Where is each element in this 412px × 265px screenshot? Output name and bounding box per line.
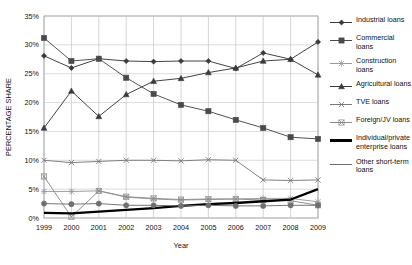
legend-point-icon: [336, 81, 347, 92]
legend-point-icon: [336, 117, 347, 128]
x-axis-tick-label: 2005: [200, 223, 216, 232]
legend-marker-square-icon: [330, 35, 352, 46]
legend-item-label: Industrial loans: [356, 16, 404, 25]
legend-item-label: Commercial loans: [356, 34, 412, 51]
data-point-diamond: [69, 65, 74, 70]
legend-marker-none-thin-icon: [330, 159, 352, 170]
legend-item[interactable]: Foreign/JV loans: [330, 116, 412, 128]
legend-item[interactable]: Commercial loans: [330, 34, 412, 51]
legend-marker-x-box-icon: [330, 117, 352, 128]
data-point-circle: [178, 203, 183, 208]
x-axis-tick-label: 2001: [91, 223, 107, 232]
chart-legend: Industrial loansCommercial loansConstruc…: [330, 0, 412, 265]
y-axis-tick-label: 15%: [25, 127, 40, 136]
x-axis-tick-label: 2003: [146, 223, 162, 232]
data-point-square: [69, 58, 74, 63]
legend-item-label: TVE loans: [356, 98, 389, 107]
y-axis-tick-label: 5%: [29, 185, 40, 194]
y-axis-tick-label: 0%: [29, 214, 40, 223]
legend-item-label: Individual/private enterprise loans: [356, 134, 412, 151]
data-point-circle: [69, 202, 74, 207]
x-axis-tick-label: 2004: [173, 223, 189, 232]
data-point-diamond: [41, 53, 46, 58]
data-point-triangle: [69, 88, 75, 93]
y-axis-tick-label: 10%: [25, 156, 40, 165]
legend-item[interactable]: Construction loans: [330, 57, 412, 74]
data-point-square: [206, 109, 211, 114]
chart-plot-area: 0%5%10%15%20%25%30%35%199920002001200220…: [0, 0, 330, 265]
data-point-square: [233, 117, 238, 122]
data-point-circle: [315, 203, 320, 208]
y-axis-title: PERCENTAGE SHARE: [4, 78, 13, 156]
data-point-square: [178, 102, 183, 107]
legend-marker-triangle-icon: [330, 81, 352, 92]
data-point-circle: [261, 203, 266, 208]
data-point-square: [261, 125, 266, 130]
data-point-square: [96, 56, 101, 61]
data-point-circle: [151, 203, 156, 208]
legend-item[interactable]: Agricultural loans: [330, 80, 412, 92]
data-point-circle: [206, 203, 211, 208]
y-axis-tick-label: 35%: [25, 12, 40, 21]
x-axis-tick-label: 2000: [63, 223, 79, 232]
data-point-diamond: [124, 58, 129, 63]
line-chart-svg: 0%5%10%15%20%25%30%35%199920002001200220…: [0, 0, 330, 265]
data-point-square: [288, 135, 293, 140]
y-axis-tick-label: 25%: [25, 69, 40, 78]
legend-item-label: Agricultural loans: [356, 80, 411, 89]
data-point-square: [124, 75, 129, 80]
data-point-square: [339, 38, 344, 43]
data-point-circle: [233, 203, 238, 208]
data-point-circle: [124, 203, 129, 208]
data-point-xbox-cross: [339, 120, 344, 125]
data-point-asterisk: [68, 188, 74, 194]
x-axis-tick-label: 2002: [118, 223, 134, 232]
data-point-x: [339, 102, 344, 107]
legend-item-label: Construction loans: [356, 57, 412, 74]
data-point-triangle: [339, 84, 345, 89]
legend-line-swatch: [330, 164, 352, 165]
legend-marker-none-icon: [330, 135, 352, 146]
data-point-square: [315, 136, 320, 141]
data-point-circle: [288, 203, 293, 208]
legend-marker-diamond-icon: [330, 17, 352, 28]
legend-item[interactable]: Individual/private enterprise loans: [330, 134, 412, 151]
data-point-diamond: [178, 58, 183, 63]
data-point-triangle: [315, 72, 321, 77]
data-point-circle: [41, 201, 46, 206]
data-point-square: [151, 91, 156, 96]
data-point-asterisk: [339, 61, 345, 67]
data-point-square: [41, 35, 46, 40]
legend-item[interactable]: TVE loans: [330, 98, 412, 110]
data-point-diamond: [261, 50, 266, 55]
data-point-triangle: [123, 91, 129, 96]
data-point-diamond: [206, 58, 211, 63]
data-point-diamond: [339, 20, 344, 25]
data-point-circle: [96, 201, 101, 206]
y-axis-tick-label: 30%: [25, 40, 40, 49]
legend-item-label: Foreign/JV loans: [356, 116, 410, 125]
legend-item-label: Other short-term loans: [356, 158, 412, 175]
data-point-diamond: [315, 39, 320, 44]
x-axis-tick-label: 1999: [36, 223, 52, 232]
x-axis-title: Year: [174, 241, 189, 250]
data-point-diamond: [151, 59, 156, 64]
y-axis-tick-label: 20%: [25, 98, 40, 107]
legend-point-icon: [336, 35, 347, 46]
x-axis-tick-label: 2009: [310, 223, 326, 232]
legend-marker-asterisk-icon: [330, 58, 352, 69]
x-axis-tick-label: 2006: [228, 223, 244, 232]
chart-figure: 0%5%10%15%20%25%30%35%199920002001200220…: [0, 0, 412, 265]
x-axis-tick-label: 2008: [283, 223, 299, 232]
legend-point-icon: [336, 17, 347, 28]
legend-marker-x-icon: [330, 99, 352, 110]
legend-point-icon: [336, 58, 347, 69]
legend-item[interactable]: Other short-term loans: [330, 158, 412, 175]
legend-point-icon: [336, 99, 347, 110]
legend-item[interactable]: Industrial loans: [330, 16, 412, 28]
x-axis-tick-label: 2007: [255, 223, 271, 232]
data-point-asterisk: [41, 188, 47, 194]
legend-line-swatch: [330, 139, 352, 141]
